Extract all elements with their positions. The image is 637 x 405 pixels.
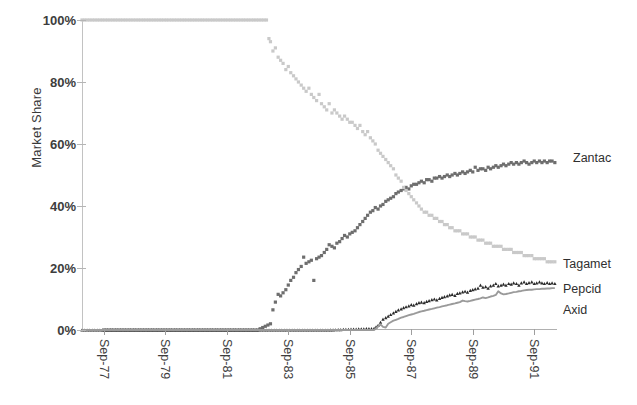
y-axis-tick-labels: 0%20%40%60%80%100%: [26, 0, 76, 405]
y-tick-label: 0%: [28, 323, 76, 338]
y-tick-label: 20%: [28, 261, 76, 276]
x-tick-mark: [350, 329, 351, 335]
series-axid: [82, 288, 555, 330]
series-marks: [82, 20, 557, 330]
market-share-chart: Market Share 0%20%40%60%80%100% Sep-77Se…: [0, 0, 637, 405]
series-label-pepcid: Pepcid: [563, 282, 601, 296]
plot-area: [82, 20, 557, 330]
x-tick-mark: [288, 329, 289, 335]
x-tick-label: Sep-81: [220, 339, 234, 405]
x-tick-label: Sep-85: [343, 339, 357, 405]
y-tick-mark: [77, 330, 86, 331]
y-tick-mark: [77, 82, 86, 83]
series-tagamet: [80, 18, 556, 263]
y-tick-label: 60%: [28, 137, 76, 152]
x-tick-label: Sep-91: [527, 339, 541, 405]
series-label-tagamet: Tagamet: [563, 257, 611, 271]
x-tick-mark: [473, 329, 474, 335]
y-tick-label: 100%: [28, 13, 76, 28]
x-tick-label: Sep-79: [158, 339, 172, 405]
series-pepcid: [80, 280, 556, 331]
x-tick-label: Sep-87: [404, 339, 418, 405]
x-tick-label: Sep-83: [281, 339, 295, 405]
y-tick-mark: [77, 206, 86, 207]
y-tick-mark: [77, 20, 86, 21]
y-tick-label: 40%: [28, 199, 76, 214]
series-label-axid: Axid: [563, 303, 587, 317]
x-tick-mark: [104, 329, 105, 335]
x-tick-label: Sep-89: [466, 339, 480, 405]
y-tick-mark: [77, 268, 86, 269]
x-tick-mark: [411, 329, 412, 335]
x-tick-mark: [165, 329, 166, 335]
y-tick-mark: [77, 144, 86, 145]
series-zantac: [102, 159, 556, 331]
x-tick-mark: [534, 329, 535, 335]
y-tick-label: 80%: [28, 75, 76, 90]
series-label-zantac: Zantac: [573, 151, 611, 165]
x-tick-label: Sep-77: [97, 339, 111, 405]
x-tick-mark: [227, 329, 228, 335]
